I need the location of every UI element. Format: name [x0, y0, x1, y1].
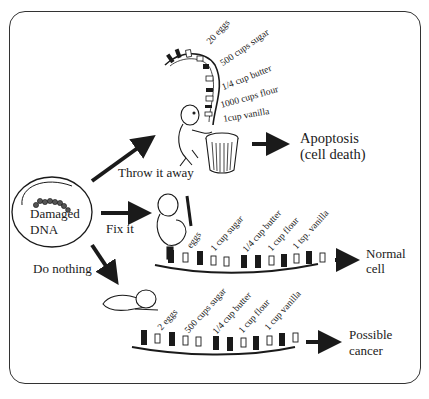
action-fix-label: Fix it — [106, 222, 134, 236]
arrow-nothing-icon — [92, 245, 112, 275]
outcome-cancer-label-line2: cancer — [349, 344, 383, 358]
worker-with-pencil-icon — [157, 194, 191, 259]
sleeping-figure-icon — [103, 290, 158, 310]
outcome-normal-label: Normal — [366, 247, 406, 261]
outcome-apoptosis-label: Apoptosis — [300, 131, 359, 146]
outcome-apoptosis-label-line2: (cell death) — [300, 147, 366, 162]
outcome-cancer-label: Possible — [349, 328, 392, 342]
branch-arrows — [92, 142, 146, 275]
damaged-dna-label: Damaged — [30, 207, 80, 221]
normal-dna-strand — [155, 250, 325, 273]
trash-can-icon — [206, 133, 238, 173]
action-throw-label: Throw it away — [118, 166, 194, 180]
action-nothing-label: Do nothing — [33, 262, 92, 276]
damaged-dna-label-line2: DNA — [30, 223, 58, 237]
outcome-normal-label-line2: cell — [366, 262, 385, 276]
